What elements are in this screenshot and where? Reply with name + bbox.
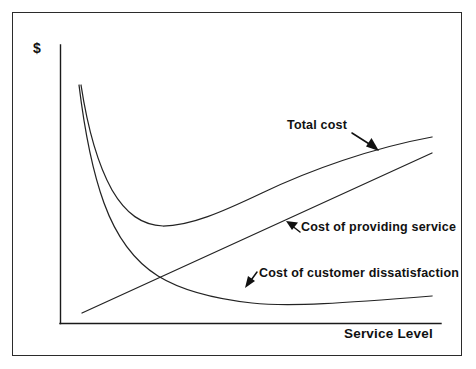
y-axis-label: $ <box>33 40 41 56</box>
annotation-total-cost: Total cost <box>287 118 347 132</box>
x-axis-label: Service Level <box>344 326 433 341</box>
annotation-cost-of-customer-dissatisfaction: Cost of customer dissatisfaction <box>259 266 459 280</box>
annotation-cost-of-providing-service: Cost of providing service <box>301 220 456 234</box>
leader-cost-of-customer-dissatisfaction <box>245 272 257 288</box>
leader-cost-of-providing-service <box>286 221 300 232</box>
chart-plot-area <box>0 0 476 369</box>
curve-total-cost <box>81 85 432 226</box>
leader-total-cost <box>352 133 379 151</box>
figure-root: $ Service Level Total cost Cost of provi… <box>0 0 476 369</box>
